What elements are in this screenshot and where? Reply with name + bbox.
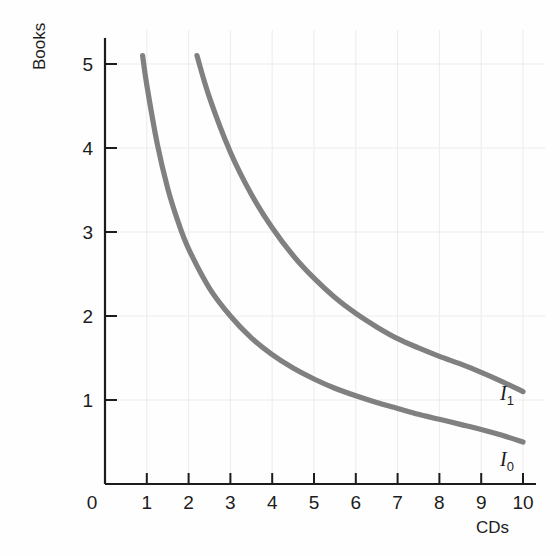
curve-label-i1: I1 (500, 382, 514, 408)
curve-label-i0-main: I (500, 448, 507, 470)
curve-label-i1-sub: 1 (507, 393, 514, 408)
curve-label-i0: I0 (500, 448, 514, 474)
y-axis-title: Books (30, 23, 50, 70)
x-tick-label: 3 (225, 493, 236, 512)
x-tick-label: 0 (87, 493, 98, 512)
y-tick-label: 3 (71, 223, 93, 242)
x-axis-title: CDs (476, 518, 509, 538)
curve-group (143, 56, 523, 442)
curve-label-i1-main: I (500, 382, 507, 404)
x-tick-label: 7 (392, 493, 403, 512)
x-tick-label: 2 (183, 493, 194, 512)
y-tick-label: 5 (71, 55, 93, 74)
y-tick-label: 2 (71, 307, 93, 326)
x-tick-label: 1 (142, 493, 153, 512)
x-tick-label: 8 (434, 493, 445, 512)
x-tick-label: 5 (309, 493, 320, 512)
x-tick-label: 10 (512, 493, 533, 512)
y-tick-label: 4 (71, 139, 93, 158)
indifference-curve-i1 (197, 56, 523, 392)
x-tick-label: 9 (476, 493, 487, 512)
indifference-curve-chart: Books CDs 012345678910 12345 I1 I0 (0, 0, 560, 556)
x-tick-label: 6 (351, 493, 362, 512)
gridlines (107, 30, 545, 482)
indifference-curve-i0 (143, 56, 523, 442)
x-tick-label: 4 (267, 493, 278, 512)
y-tick-label: 1 (71, 391, 93, 410)
axis-lines (105, 38, 536, 484)
curve-label-i0-sub: 0 (507, 459, 514, 474)
plot-area (0, 0, 560, 556)
